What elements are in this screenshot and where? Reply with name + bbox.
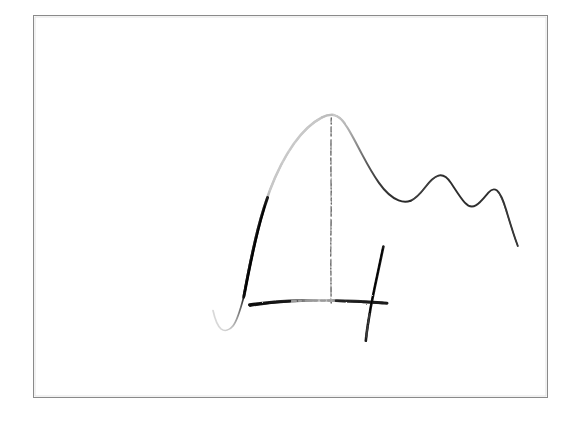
peak-marker-dashed-line <box>331 118 332 303</box>
sketch-page <box>0 0 578 423</box>
paper-background <box>0 0 578 423</box>
sketch-canvas <box>0 0 578 423</box>
